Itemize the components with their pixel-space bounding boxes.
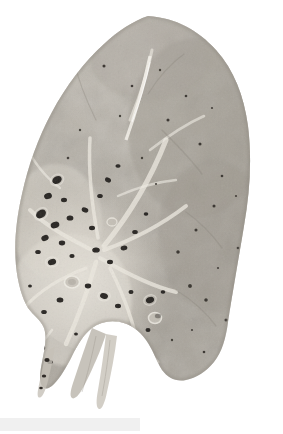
figure-page: Lung gross pathology specimen: [0, 0, 283, 434]
specimen-photograph: [0, 0, 283, 414]
figure-caption-strip: [0, 418, 140, 431]
lung-specimen-image: [0, 0, 283, 414]
